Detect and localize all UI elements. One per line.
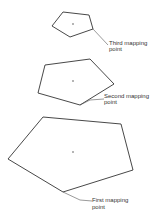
large-pentagon-group: First mapping point: [8, 117, 133, 210]
third-mapping-label-line2: point: [109, 46, 122, 52]
medium-pentagon-center-dot: [72, 80, 73, 81]
first-mapping-leader-line: [63, 192, 92, 201]
first-mapping-label-line1: First mapping: [92, 197, 128, 203]
small-pentagon-group: Third mapping point: [52, 12, 147, 52]
small-pentagon-center-dot: [72, 23, 73, 24]
large-pentagon-center-dot: [72, 151, 73, 152]
medium-pentagon-group: Second mapping point: [38, 59, 149, 105]
third-mapping-leader-line: [93, 29, 108, 45]
first-mapping-label-line2: point: [92, 204, 105, 210]
large-pentagon: [8, 117, 133, 192]
second-mapping-leader-line: [80, 99, 104, 105]
medium-pentagon: [38, 59, 114, 105]
mapping-points-diagram: Third mapping point Second mapping point…: [0, 0, 156, 220]
second-mapping-label-line2: point: [104, 99, 117, 105]
small-pentagon: [52, 12, 93, 37]
